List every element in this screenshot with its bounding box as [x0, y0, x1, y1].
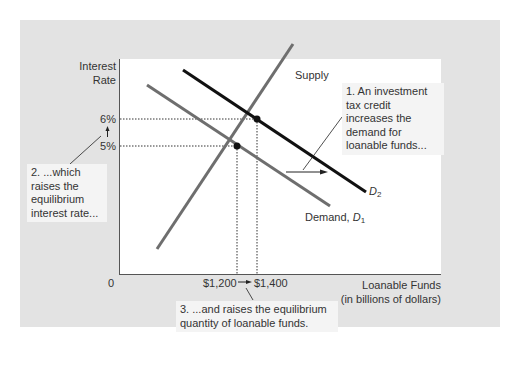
shift-arrow-head-icon — [320, 170, 328, 175]
callout-3-line: quantity of loanable funds. — [180, 317, 334, 331]
callout-2-line: raises the — [31, 180, 103, 194]
demand-curve-d2 — [183, 70, 366, 192]
callout-2-line: equilibrium — [31, 193, 103, 207]
equilibrium-point-initial — [234, 143, 241, 150]
y-tick-6pct: 6% — [94, 113, 116, 126]
demand-d2-label: D2 — [369, 185, 381, 201]
callout-2-line: 2. ...which — [31, 166, 103, 180]
callout-1-line: demand for — [346, 126, 440, 140]
x-tick-1200: $1,200 — [203, 277, 237, 290]
equilibrium-point-new — [254, 116, 261, 123]
x-axis-title-line1: Loanable Funds — [330, 279, 441, 292]
x-tick-1400: $1,400 — [254, 277, 288, 290]
y-axis-title-line1: Interest — [78, 60, 116, 73]
demand-d1-label-text: Demand, — [305, 211, 353, 223]
y-axis-title: Interest Rate — [78, 60, 116, 87]
callout-3-line: 3. ...and raises the equilibrium — [180, 303, 334, 317]
callout-3: 3. ...and raises the equilibrium quantit… — [176, 301, 338, 332]
callout-1-line: 1. An investment — [346, 85, 440, 99]
callout-1-line: tax credit — [346, 99, 440, 113]
demand-d2-subscript: 2 — [377, 190, 381, 199]
callout-1-line: increases the — [346, 112, 440, 126]
demand-d1-symbol: D — [353, 211, 361, 223]
x-axis-title-line2: (in billions of dollars) — [330, 293, 441, 306]
callout-2-line: interest rate... — [31, 207, 103, 221]
demand-d1-subscript: 1 — [361, 216, 365, 225]
demand-d1-label: Demand, D1 — [305, 211, 365, 227]
quantity-rise-arrow-head-icon — [246, 280, 252, 284]
callout-2: 2. ...which raises the equilibrium inter… — [27, 164, 107, 222]
demand-d2-symbol: D — [369, 185, 377, 197]
supply-label: Supply — [295, 69, 329, 82]
callout-3-leader — [246, 288, 253, 300]
rate-rise-arrow-head-icon — [106, 126, 110, 131]
x-axis-title: Loanable Funds (in billions of dollars) — [330, 279, 441, 306]
guide-lines — [120, 119, 257, 274]
callout-1-line: loanable funds... — [346, 139, 440, 153]
y-tick-5pct: 5% — [94, 140, 116, 153]
callout-1: 1. An investment tax credit increases th… — [342, 83, 444, 155]
origin-label: 0 — [108, 277, 114, 290]
y-axis-title-line2: Rate — [78, 74, 116, 87]
